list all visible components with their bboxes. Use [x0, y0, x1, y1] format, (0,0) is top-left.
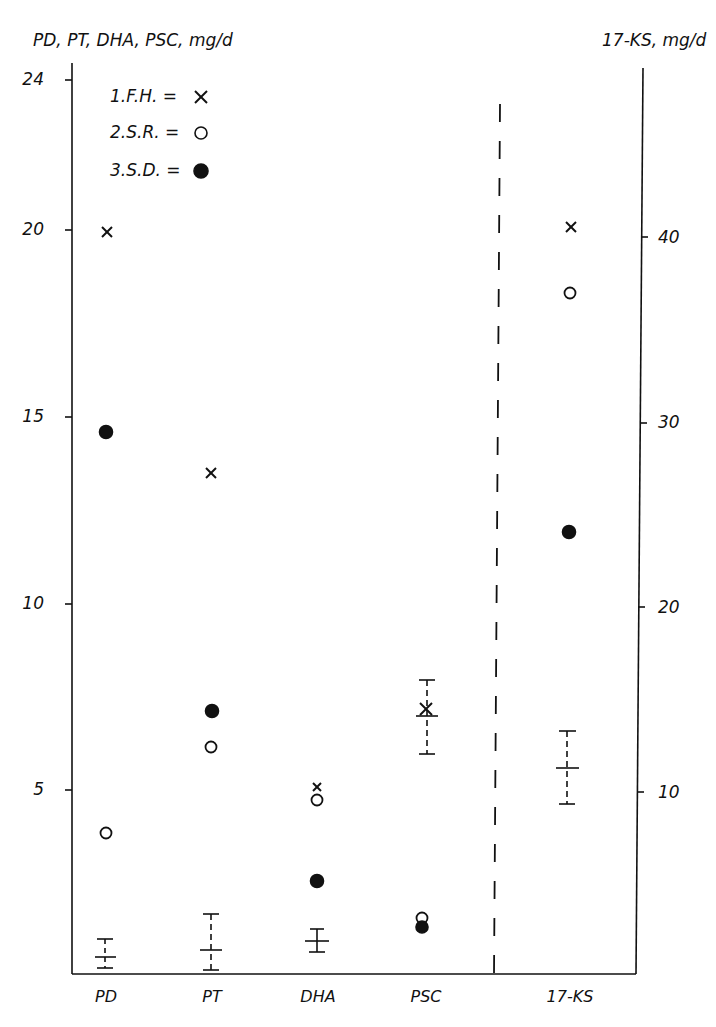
legend-filled-circle-icon: [194, 164, 208, 178]
range-bar-pd: [95, 939, 116, 968]
left-axis-ticks: [65, 80, 72, 790]
legend-x-icon: [195, 91, 207, 103]
range-bar-dha: [305, 929, 329, 952]
chart-plot-area: [0, 0, 716, 1027]
y-axis-right: [636, 68, 643, 974]
legend-open-circle-icon: [195, 127, 207, 139]
series-sd-markers: [100, 426, 576, 934]
range-bar-pt: [200, 914, 222, 970]
series-sr-markers: [101, 288, 576, 924]
section-divider-dashed: [494, 104, 500, 974]
range-bar-17ks: [556, 731, 579, 804]
range-bar-psc: [416, 680, 438, 754]
series-fh-markers: [102, 222, 576, 791]
